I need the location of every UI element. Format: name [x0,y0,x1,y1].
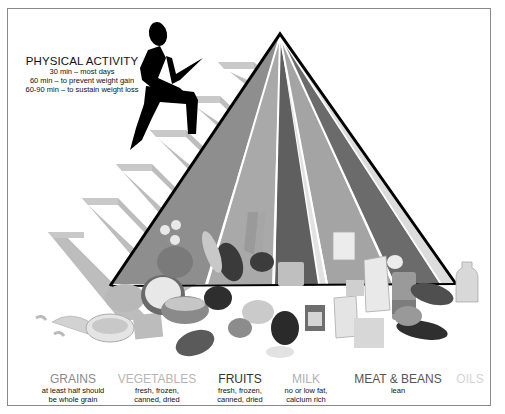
juice-carton [278,262,304,286]
cheese [354,318,384,348]
pyramid [110,34,456,286]
activity-line: 30 min – most days [22,67,142,76]
group-desc: canned, dried [112,395,202,404]
group-desc: calcium rich [266,395,346,404]
crackers [133,313,163,340]
activity-line: 60-90 min – to sustain weight loss [22,85,142,94]
physical-activity-title: PHYSICAL ACTIVITY [22,55,142,67]
group-desc: lean [346,386,450,395]
egg [387,255,403,269]
physical-activity-block: PHYSICAL ACTIVITY 30 min – most days 60 … [22,55,142,94]
milk-glass [333,232,355,260]
group-name: VEGETABLES [112,372,202,386]
sweet-potato [172,325,218,361]
dark-fruit [204,286,232,310]
group-desc: no or low fat, [266,386,346,395]
group-desc: at least half should [28,386,118,395]
yogurt-cup [346,280,364,296]
activity-line: 60 min – to prevent weight gain [22,76,142,85]
cauliflower [160,225,170,235]
oil-bottle [456,262,478,302]
label-vegetables: VEGETABLES fresh, frozen, canned, dried [112,372,202,404]
chicken [394,306,422,326]
group-name: MEAT & BEANS [346,372,450,386]
milk-carton-large [364,256,390,312]
group-name: GRAINS [28,372,118,386]
group-name: OILS [450,372,490,386]
bread-loaf [105,284,145,312]
group-desc: fresh, frozen, [112,386,202,395]
grapes [250,252,274,272]
label-grains: GRAINS at least half should be whole gra… [28,372,118,404]
group-name: MILK [266,372,346,386]
strawberries [228,318,252,338]
cabbage [157,246,193,278]
label-meat-beans: MEAT & BEANS lean [346,372,450,395]
label-oils: OILS [450,372,490,386]
apple [271,311,299,345]
group-desc: be whole grain [28,395,118,404]
banana [266,346,294,358]
label-milk: MILK no or low fat, calcium rich [266,372,346,404]
